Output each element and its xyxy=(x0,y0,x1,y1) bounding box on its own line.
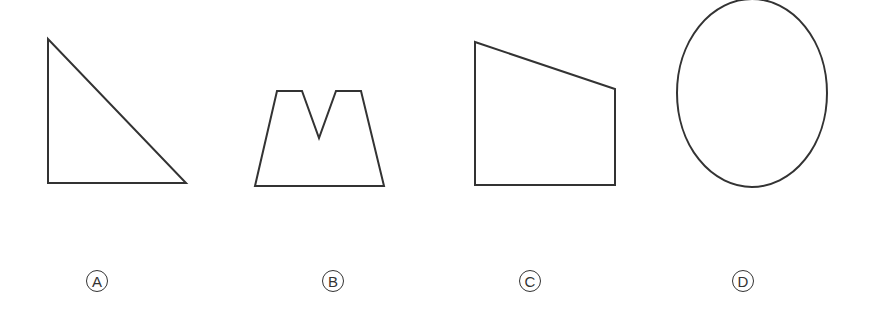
option-label-d[interactable]: D xyxy=(732,270,754,292)
option-label-b[interactable]: B xyxy=(322,270,344,292)
option-label-a[interactable]: A xyxy=(86,270,108,292)
shape-c-right-trapezoid xyxy=(475,42,615,185)
option-label-b-text: B xyxy=(328,274,338,289)
option-label-c[interactable]: C xyxy=(519,270,541,292)
option-label-c-text: C xyxy=(525,274,536,289)
shape-b-notched-trapezoid xyxy=(255,91,384,186)
option-label-a-text: A xyxy=(92,274,102,289)
shape-d-ellipse xyxy=(677,0,827,187)
shape-a-right-triangle xyxy=(48,39,186,183)
option-label-d-text: D xyxy=(738,274,749,289)
